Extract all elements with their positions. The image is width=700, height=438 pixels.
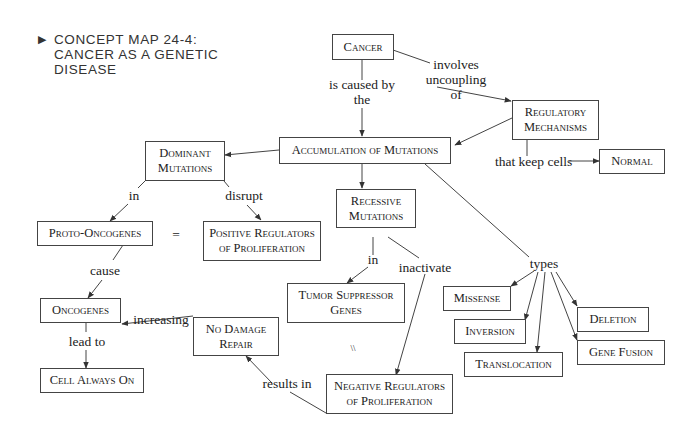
link-types: types: [527, 256, 561, 271]
link-label: =: [172, 227, 180, 242]
node-label-line-1: No Damage: [206, 322, 267, 337]
node-label-line-1: Negative Regulators: [334, 379, 445, 394]
node-label: Cancer: [344, 40, 383, 55]
node-tumor-suppressor-genes: Tumor Suppressor Genes: [287, 283, 405, 323]
link-involves-uncoupling: involves uncoupling of: [424, 57, 488, 102]
node-label-line-1: Positive Regulators: [209, 226, 315, 241]
node-proto-oncogenes: Proto-Oncogenes: [37, 221, 153, 246]
node-label: Normal: [611, 154, 653, 169]
node-label-line-2: of Proliferation: [346, 394, 432, 409]
node-negative-regulators: Negative Regulators of Proliferation: [326, 374, 453, 414]
node-label-line-1: Dominant: [159, 146, 211, 161]
node-regulatory-mechanisms: Regulatory Mechanisms: [512, 100, 599, 140]
node-recessive-mutations: Recessive Mutations: [336, 189, 416, 228]
link-label-line-3: of: [424, 87, 488, 102]
link-label: results in: [262, 376, 311, 391]
node-label: Accumulation of Mutations: [292, 143, 439, 158]
link-label: \\: [350, 343, 355, 353]
link-lead-to: lead to: [66, 334, 108, 349]
node-no-damage-repair: No Damage Repair: [193, 317, 279, 356]
node-inversion: Inversion: [454, 319, 526, 344]
link-label-line-2: uncoupling: [424, 72, 488, 87]
node-label-line-1: Tumor Suppressor: [298, 288, 393, 303]
link-disrupt: disrupt: [221, 188, 267, 203]
link-label: cause: [90, 263, 120, 278]
node-oncogenes: Oncogenes: [40, 298, 121, 323]
link-in-recessive: in: [365, 252, 381, 267]
node-label-line-2: Mutations: [349, 209, 403, 224]
link-in-dominant: in: [126, 188, 142, 203]
node-label: Oncogenes: [52, 303, 109, 318]
node-positive-regulators: Positive Regulators of Proliferation: [203, 221, 321, 261]
link-label-line-2: the: [325, 92, 399, 107]
node-accumulation-of-mutations: Accumulation of Mutations: [279, 137, 451, 164]
link-is-caused-by: is caused by the: [325, 77, 399, 107]
node-label: Cell Always On: [50, 373, 134, 388]
node-label: Proto-Oncogenes: [49, 226, 141, 241]
link-inactivate: inactivate: [397, 260, 453, 275]
node-label: Gene Fusion: [589, 345, 653, 360]
node-translocation: Translocation: [464, 352, 563, 377]
link-cause: cause: [88, 263, 122, 278]
node-label-line-2: Mechanisms: [524, 120, 587, 135]
link-label: increasing: [133, 312, 188, 327]
node-deletion: Deletion: [577, 307, 649, 332]
link-label-line-1: is caused by: [325, 77, 399, 92]
node-normal: Normal: [599, 149, 665, 174]
link-equivalent-mark: \\: [347, 341, 359, 356]
link-label: in: [368, 252, 379, 267]
node-label: Inversion: [465, 324, 515, 339]
node-label: Missense: [454, 291, 501, 306]
node-cancer: Cancer: [332, 34, 394, 60]
node-gene-fusion: Gene Fusion: [577, 340, 665, 365]
node-label-line-2: Repair: [219, 337, 253, 352]
link-label: disrupt: [225, 188, 263, 203]
link-label: types: [530, 256, 559, 271]
link-label: inactivate: [399, 260, 451, 275]
link-equals: =: [168, 227, 184, 242]
link-label: in: [129, 188, 140, 203]
node-label-line-2: Genes: [330, 303, 362, 318]
node-label-line-2: of Proliferation: [219, 241, 305, 256]
node-label-line-1: Regulatory: [525, 105, 587, 120]
link-increasing: increasing: [133, 312, 189, 327]
link-results-in: results in: [259, 376, 315, 391]
node-cell-always-on: Cell Always On: [40, 368, 144, 393]
link-label: lead to: [69, 334, 105, 349]
node-missense: Missense: [443, 286, 511, 311]
link-that-keep-cells: that keep cells: [495, 154, 569, 169]
node-label-line-1: Recessive: [351, 194, 401, 209]
node-label: Translocation: [475, 357, 552, 372]
node-dominant-mutations: Dominant Mutations: [145, 141, 225, 181]
node-label: Deletion: [589, 312, 636, 327]
node-label-line-2: Mutations: [158, 161, 212, 176]
link-label: that keep cells: [495, 154, 572, 169]
link-label-line-1: involves: [424, 57, 488, 72]
